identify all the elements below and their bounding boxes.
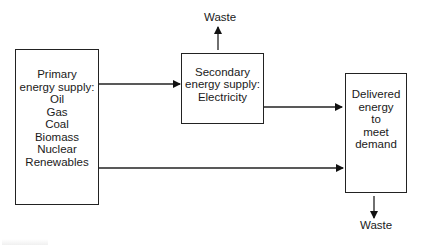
delivered-line-3: to — [371, 113, 381, 126]
waste-label-bottom: Waste — [360, 219, 392, 231]
faint-caption-remnant — [2, 239, 48, 245]
secondary-line-3: Electricity — [198, 91, 247, 104]
secondary-energy-box: Secondary energy supply: Electricity — [181, 53, 264, 124]
primary-item-coal: Coal — [45, 118, 69, 131]
waste-label-top: Waste — [204, 11, 236, 23]
secondary-line-1: Secondary — [195, 66, 250, 79]
delivered-line-4: meet — [363, 126, 389, 139]
primary-item-oil: Oil — [50, 93, 64, 106]
primary-item-renewables: Renewables — [25, 156, 88, 169]
delivered-line-1: Delivered — [352, 88, 401, 101]
delivered-line-5: demand — [355, 138, 397, 151]
primary-item-nuclear: Nuclear — [37, 143, 77, 156]
delivered-energy-box: Delivered energy to meet demand — [345, 73, 407, 193]
secondary-line-2: energy supply: — [185, 78, 260, 91]
primary-item-biomass: Biomass — [35, 131, 79, 144]
primary-energy-box: Primary energy supply: Oil Gas Coal Biom… — [15, 49, 99, 205]
delivered-line-2: energy — [358, 101, 393, 114]
primary-title-line-2: energy supply: — [20, 81, 95, 94]
primary-title-line-1: Primary — [37, 68, 77, 81]
primary-item-gas: Gas — [46, 106, 67, 119]
